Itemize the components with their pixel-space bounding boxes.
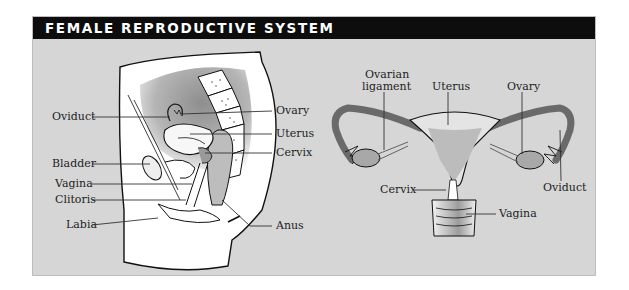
label-vagina-front: Vagina	[499, 208, 537, 220]
label-clitoris: Clitoris	[55, 194, 96, 206]
label-cervix-front: Cervix	[380, 184, 416, 196]
label-vagina-side: Vagina	[55, 178, 93, 190]
label-cervix-side: Cervix	[276, 147, 312, 159]
label-ovary-side: Ovary	[276, 105, 309, 117]
label-uterus-side: Uterus	[276, 128, 314, 140]
label-ovarian-line2: ligament	[362, 81, 411, 93]
label-oviduct-front: Oviduct	[543, 182, 586, 194]
label-oviduct-side: Oviduct	[52, 111, 95, 123]
label-uterus-front: Uterus	[432, 81, 470, 93]
anatomy-illustration	[0, 0, 629, 290]
side-view-diagram	[120, 52, 277, 270]
label-ovary-front: Ovary	[507, 81, 540, 93]
label-labia: Labia	[66, 219, 97, 231]
label-anus: Anus	[276, 220, 304, 232]
label-bladder: Bladder	[52, 158, 96, 170]
